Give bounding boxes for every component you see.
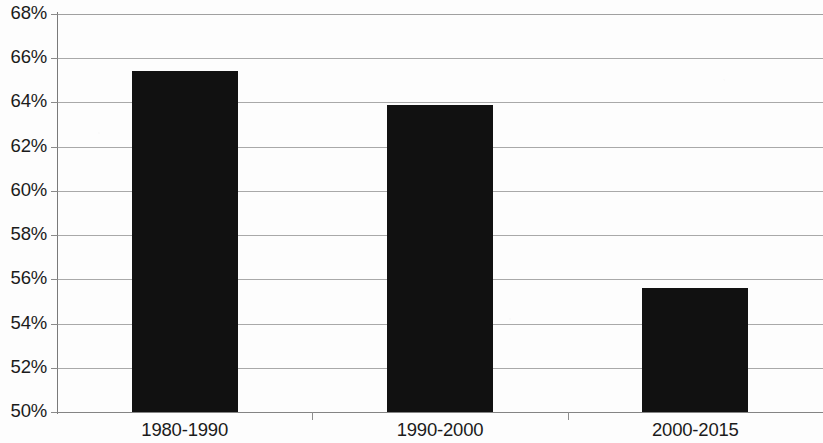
plot-area bbox=[57, 14, 823, 412]
y-axis-tick-label: 56% bbox=[3, 269, 47, 288]
y-axis-tick bbox=[51, 14, 58, 15]
y-axis-tick bbox=[51, 235, 58, 236]
bar-chart: 68%66%64%62%60%58%56%54%52%50% 1980-1990… bbox=[0, 0, 823, 443]
y-axis-tick bbox=[51, 191, 58, 192]
x-axis-tick-label: 1980-1990 bbox=[85, 418, 285, 441]
y-axis-tick bbox=[51, 58, 58, 59]
bar bbox=[642, 288, 748, 412]
x-axis-tick-label: 2000-2015 bbox=[595, 418, 795, 441]
y-axis-tick-label: 64% bbox=[3, 92, 47, 111]
x-axis-tick bbox=[568, 412, 569, 420]
y-axis-tick-label: 66% bbox=[3, 48, 47, 67]
y-axis-tick bbox=[51, 102, 58, 103]
y-axis-tick-label: 52% bbox=[3, 358, 47, 377]
bar bbox=[387, 105, 493, 412]
y-axis-tick bbox=[51, 324, 58, 325]
y-axis-tick-label: 58% bbox=[3, 225, 47, 244]
x-axis-tick bbox=[312, 412, 313, 420]
gridline bbox=[57, 14, 823, 15]
y-axis-tick bbox=[51, 147, 58, 148]
x-axis-tick-label: 1990-2000 bbox=[340, 418, 540, 441]
bar bbox=[132, 71, 238, 412]
y-axis-tick-label: 60% bbox=[3, 181, 47, 200]
y-axis-tick bbox=[51, 368, 58, 369]
gridline bbox=[57, 412, 823, 413]
y-axis-tick bbox=[51, 279, 58, 280]
y-axis-tick-label: 62% bbox=[3, 137, 47, 156]
y-axis-tick-label: 50% bbox=[3, 402, 47, 421]
gridline bbox=[57, 58, 823, 59]
y-axis-tick-label: 54% bbox=[3, 314, 47, 333]
y-axis-tick-label: 68% bbox=[3, 4, 47, 23]
y-axis-tick bbox=[51, 412, 58, 413]
